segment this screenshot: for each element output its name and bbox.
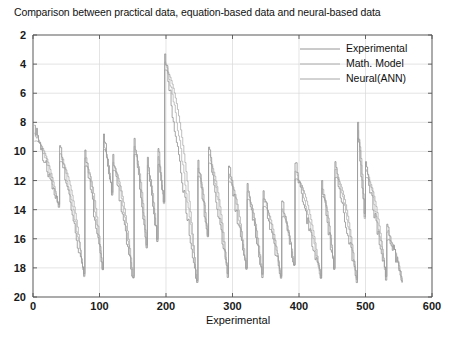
y-tick-label: 6 xyxy=(2,87,26,99)
y-tick-label: 2 xyxy=(2,29,26,41)
y-tick-label: 4 xyxy=(2,58,26,70)
x-tick-label: 400 xyxy=(279,300,319,312)
x-tick-label: 100 xyxy=(80,300,120,312)
x-tick-label: 500 xyxy=(346,300,386,312)
y-tick-label: 14 xyxy=(2,204,26,216)
x-axis-label-text: Experimental xyxy=(206,314,270,326)
x-tick-label: 300 xyxy=(213,300,253,312)
x-tick-label: 200 xyxy=(146,300,186,312)
series-line-neural_ann xyxy=(34,70,402,283)
legend-label-0: Experimental xyxy=(346,42,407,54)
x-tick-label: 600 xyxy=(412,300,452,312)
y-tick-label: 8 xyxy=(2,116,26,128)
data-series-layer xyxy=(34,54,402,283)
series-line-experimental xyxy=(34,54,402,283)
x-axis-label: Experimental xyxy=(0,314,456,326)
chart-figure: Comparison between practical data, equat… xyxy=(0,0,456,341)
y-tick-label: 16 xyxy=(2,233,26,245)
legend-line-samples xyxy=(300,49,340,79)
y-tick-label: 12 xyxy=(2,175,26,187)
x-tick-label: 0 xyxy=(13,300,53,312)
y-tick-label: 18 xyxy=(2,262,26,274)
legend-label-2: Neural(ANN) xyxy=(346,72,406,84)
y-tick-label: 10 xyxy=(2,145,26,157)
legend-label-1: Math. Model xyxy=(346,57,404,69)
